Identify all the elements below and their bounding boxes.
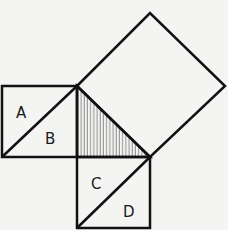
label-d: D xyxy=(123,203,135,221)
pythagoras-diagram: A B C D xyxy=(0,0,228,230)
label-a: A xyxy=(16,104,27,122)
diagonal-cd xyxy=(77,157,150,228)
label-c: C xyxy=(91,175,101,193)
label-b: B xyxy=(45,130,55,148)
diagonal-ab xyxy=(2,86,77,157)
